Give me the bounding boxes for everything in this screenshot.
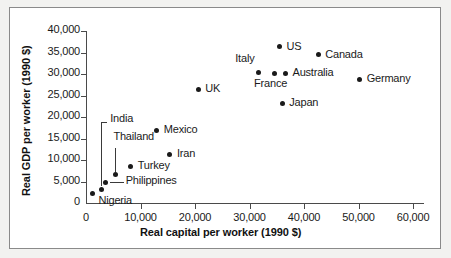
- y-axis-tick: [81, 117, 86, 118]
- y-axis-tick-label: 10,000: [24, 152, 80, 164]
- data-point-italy: [256, 70, 261, 75]
- y-axis-tick-label: 35,000: [24, 45, 80, 57]
- data-point-label-italy: Italy: [235, 52, 254, 64]
- data-point-philippines: [103, 180, 108, 185]
- y-axis-title: Real GDP per worker (1990 $): [20, 46, 32, 196]
- data-point-label-philippines: Philippines: [126, 174, 177, 186]
- x-axis-tick: [359, 204, 360, 209]
- data-point-india: [99, 187, 104, 192]
- leader-line: [101, 122, 107, 123]
- data-point-label-india: India: [110, 112, 133, 124]
- x-axis-tick: [250, 204, 251, 209]
- y-axis-tick-label: 0: [24, 195, 80, 207]
- data-point-label-japan: Japan: [289, 96, 318, 108]
- y-axis-tick: [81, 53, 86, 54]
- data-point-label-mexico: Mexico: [164, 123, 198, 135]
- data-point-australia: [283, 71, 288, 76]
- y-axis-tick-label: 40,000: [24, 23, 80, 35]
- y-axis-tick-label: 25,000: [24, 88, 80, 100]
- x-axis-title: Real capital per worker (1990 $): [140, 226, 301, 238]
- y-axis-tick: [81, 96, 86, 97]
- data-point-label-canada: Canada: [325, 48, 362, 60]
- x-axis-tick: [413, 204, 414, 209]
- data-point-label-france: France: [254, 77, 287, 89]
- data-point-us: [277, 44, 282, 49]
- y-axis-tick: [81, 139, 86, 140]
- y-axis-tick-label: 15,000: [24, 131, 80, 143]
- y-axis-tick: [81, 74, 86, 75]
- data-point-label-iran: Iran: [177, 147, 195, 159]
- data-point-thailand: [113, 172, 118, 177]
- data-point-label-uk: UK: [205, 82, 220, 94]
- y-axis-tick-label: 30,000: [24, 66, 80, 78]
- data-point-label-australia: Australia: [293, 66, 334, 78]
- y-axis-tick-label: 5,000: [24, 174, 80, 186]
- data-point-germany: [357, 77, 362, 82]
- leader-line: [110, 182, 124, 183]
- data-point-label-germany: Germany: [367, 72, 411, 84]
- y-axis-line: [86, 31, 87, 204]
- y-axis-tick-label: 20,000: [24, 109, 80, 121]
- data-point-france: [272, 71, 277, 76]
- data-point-turkey: [128, 164, 133, 169]
- y-axis-tick: [81, 160, 86, 161]
- y-axis-tick: [81, 182, 86, 183]
- figure-container: 05,00010,00015,00020,00025,00030,00035,0…: [0, 0, 451, 258]
- x-axis-tick-label: 60,000: [381, 211, 445, 223]
- x-axis-tick: [141, 204, 142, 209]
- data-point-mexico: [154, 128, 159, 133]
- data-point-nigeria: [90, 191, 95, 196]
- x-axis-tick: [195, 204, 196, 209]
- data-point-label-thailand: Thailand: [113, 130, 154, 142]
- data-point-label-nigeria: Nigeria: [99, 194, 132, 206]
- data-point-canada: [316, 52, 321, 57]
- leader-line: [101, 122, 102, 186]
- data-point-label-us: US: [287, 40, 302, 52]
- y-axis-tick: [81, 31, 86, 32]
- scatter-plot: 05,00010,00015,00020,00025,00030,00035,0…: [0, 0, 451, 258]
- x-axis-line: [86, 203, 424, 204]
- data-point-iran: [167, 152, 172, 157]
- data-point-label-turkey: Turkey: [138, 159, 170, 171]
- x-axis-tick: [304, 204, 305, 209]
- data-point-japan: [280, 101, 285, 106]
- leader-line: [115, 148, 116, 172]
- data-point-uk: [196, 87, 201, 92]
